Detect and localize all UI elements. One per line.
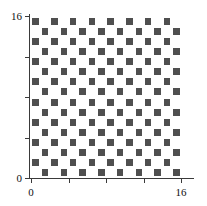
heatmap-cell (126, 78, 133, 85)
heatmap-cell (98, 48, 105, 55)
heatmap-cell (145, 119, 152, 126)
heatmap-cell (51, 58, 58, 65)
y-axis-line (29, 14, 30, 179)
heatmap-cell (107, 58, 114, 65)
heatmap-cell (51, 139, 58, 146)
heatmap-cell (79, 28, 86, 35)
heatmap-cell (70, 38, 77, 45)
heatmap-cell (154, 48, 161, 55)
heatmap-cell (98, 169, 105, 176)
heatmap-cell (173, 88, 180, 95)
heatmap-cell (42, 48, 49, 55)
heatmap-cell (70, 18, 77, 25)
heatmap-cell (79, 68, 86, 75)
heatmap-cell (164, 38, 171, 45)
heatmap-cell (32, 139, 39, 146)
heatmap-cell (154, 149, 161, 156)
heatmap-cell (61, 129, 68, 136)
heatmap-cell (42, 129, 49, 136)
heatmap-cell (89, 99, 96, 106)
heatmap-cell (89, 38, 96, 45)
heatmap-cell (98, 68, 105, 75)
heatmap-cell (173, 48, 180, 55)
heatmap-cell (61, 48, 68, 55)
heatmap-cell (51, 18, 58, 25)
y-axis-tick (25, 57, 29, 58)
heatmap-cell (61, 169, 68, 176)
x-axis-tick-label: 0 (19, 187, 43, 198)
heatmap-cell (173, 109, 180, 116)
heatmap-cell (32, 18, 39, 25)
heatmap-cell (173, 169, 180, 176)
heatmap-cell (126, 18, 133, 25)
figure-canvas: 016 016 (0, 0, 207, 206)
heatmap-cell (42, 149, 49, 156)
heatmap-cell (117, 129, 124, 136)
heatmap-cell (51, 78, 58, 85)
heatmap-cell (79, 149, 86, 156)
heatmap-cell (107, 159, 114, 166)
heatmap-cell (164, 139, 171, 146)
heatmap-cell (136, 68, 143, 75)
heatmap-cell (136, 169, 143, 176)
heatmap-cell (126, 119, 133, 126)
heatmap-cell (42, 68, 49, 75)
heatmap-cell (70, 139, 77, 146)
heatmap-cell (61, 109, 68, 116)
heatmap-cell (117, 28, 124, 35)
heatmap-cell (117, 109, 124, 116)
heatmap-cell (98, 149, 105, 156)
heatmap-cell (136, 28, 143, 35)
heatmap-cell (164, 159, 171, 166)
x-axis-tick (69, 179, 70, 183)
heatmap-cell (51, 99, 58, 106)
heatmap-cell (154, 129, 161, 136)
y-axis-tick (25, 138, 29, 139)
heatmap-cell (164, 18, 171, 25)
heatmap-cell (145, 78, 152, 85)
heatmap-cell (117, 68, 124, 75)
x-axis-tick (144, 179, 145, 183)
heatmap-cell (32, 78, 39, 85)
heatmap-cell (173, 28, 180, 35)
checkerboard-heatmap (31, 16, 181, 178)
heatmap-cell (173, 149, 180, 156)
heatmap-cell (117, 149, 124, 156)
heatmap-cell (145, 58, 152, 65)
heatmap-cell (32, 119, 39, 126)
heatmap-cell (51, 159, 58, 166)
heatmap-cell (136, 149, 143, 156)
y-axis-tick-label: 16 (0, 11, 22, 22)
heatmap-cell (126, 159, 133, 166)
heatmap-cell (117, 88, 124, 95)
heatmap-cell (79, 48, 86, 55)
y-axis-tick-label: 0 (0, 173, 22, 184)
x-axis-tick (181, 179, 182, 183)
heatmap-cell (70, 78, 77, 85)
heatmap-cell (145, 38, 152, 45)
heatmap-cell (107, 78, 114, 85)
heatmap-cell (79, 109, 86, 116)
heatmap-cell (117, 169, 124, 176)
heatmap-cell (107, 38, 114, 45)
heatmap-cell (145, 139, 152, 146)
x-axis-tick-label: 16 (169, 187, 193, 198)
heatmap-cell (89, 78, 96, 85)
heatmap-cell (126, 99, 133, 106)
heatmap-cell (164, 99, 171, 106)
heatmap-cell (154, 68, 161, 75)
heatmap-cell (70, 99, 77, 106)
heatmap-cell (89, 119, 96, 126)
heatmap-cell (89, 58, 96, 65)
heatmap-cell (136, 48, 143, 55)
heatmap-cell (173, 129, 180, 136)
heatmap-cell (42, 88, 49, 95)
heatmap-cell (145, 99, 152, 106)
x-axis-tick (106, 179, 107, 183)
heatmap-cell (79, 169, 86, 176)
heatmap-cell (164, 78, 171, 85)
heatmap-cell (61, 88, 68, 95)
heatmap-cell (126, 58, 133, 65)
heatmap-cell (154, 109, 161, 116)
heatmap-cell (173, 68, 180, 75)
